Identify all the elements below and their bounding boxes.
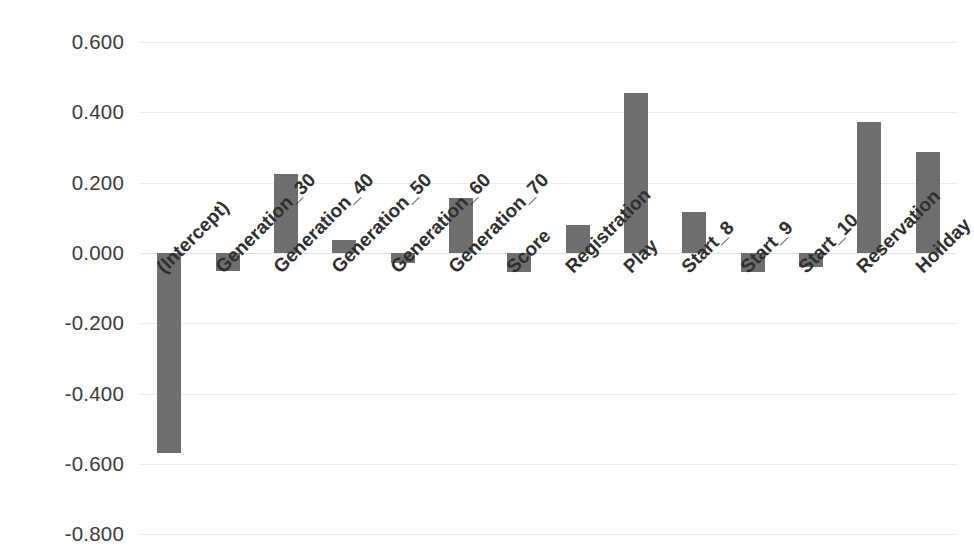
y-axis-tick-label: 0.400 bbox=[0, 102, 140, 123]
bar[interactable] bbox=[857, 122, 881, 253]
y-axis-tick-label: -0.200 bbox=[0, 313, 140, 334]
y-axis-tick-label: -0.400 bbox=[0, 383, 140, 404]
y-axis-tick-label: 0.000 bbox=[0, 243, 140, 264]
plot-area: (Intercept)Generation_30Generation_40Gen… bbox=[140, 0, 957, 547]
bar[interactable] bbox=[624, 93, 648, 253]
y-axis-tick-label: 0.200 bbox=[0, 172, 140, 193]
y-axis-tick-label: -0.600 bbox=[0, 454, 140, 475]
bar-series bbox=[140, 0, 957, 547]
y-axis: 0.6000.4000.2000.000-0.200-0.400-0.600-0… bbox=[0, 0, 140, 547]
y-axis-tick-label: 0.600 bbox=[0, 32, 140, 53]
y-axis-tick-label: -0.800 bbox=[0, 524, 140, 545]
bar[interactable] bbox=[157, 253, 181, 453]
